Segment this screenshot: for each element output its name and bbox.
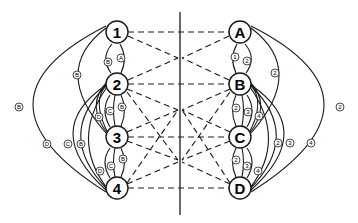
arc-B-C-b	[242, 95, 244, 126]
network-diagram: 1 2 3 4 A B C D	[0, 0, 358, 223]
node-3: 3	[106, 126, 128, 148]
right-arc-label: 3	[244, 108, 252, 116]
svg-text:B: B	[121, 156, 125, 162]
svg-text:D: D	[97, 114, 102, 120]
left-arc-label: B	[118, 103, 126, 111]
svg-text:3: 3	[113, 129, 121, 146]
left-arc-label: C	[107, 162, 115, 170]
svg-text:C: C	[108, 108, 113, 114]
left-arc-label: D	[43, 140, 51, 148]
svg-text:B: B	[17, 104, 21, 110]
node-D: D	[229, 177, 251, 199]
node-2: 2	[106, 73, 128, 95]
right-arc-label: 4	[254, 167, 262, 175]
svg-text:B: B	[75, 72, 79, 78]
node-C: C	[229, 126, 251, 148]
node-A: A	[229, 21, 251, 43]
arc-C-D-b	[242, 148, 244, 177]
svg-text:A: A	[119, 55, 123, 61]
left-arc-label: D	[95, 113, 103, 121]
svg-text:B: B	[106, 59, 110, 65]
arc-3-4-b	[114, 148, 116, 177]
dashed-connections	[127, 32, 230, 188]
node-1: 1	[106, 21, 128, 43]
svg-text:2: 2	[113, 76, 121, 93]
svg-text:B: B	[235, 76, 246, 93]
right-arc-label: 2	[271, 69, 279, 77]
svg-text:C: C	[66, 141, 71, 147]
right-arc-label: 3	[286, 139, 294, 147]
left-arc-label: B	[104, 58, 112, 66]
svg-text:1: 1	[113, 24, 121, 41]
right-arc-label: 2	[243, 57, 251, 65]
svg-text:D: D	[235, 180, 246, 197]
right-arc-label: 2	[232, 156, 240, 164]
svg-text:D: D	[45, 141, 50, 147]
svg-text:A: A	[235, 24, 246, 41]
left-arc-label: B	[119, 155, 127, 163]
node-4: 4	[106, 177, 128, 199]
right-arc-label: 4	[255, 112, 263, 120]
node-B: B	[229, 73, 251, 95]
right-arc-label: 4	[307, 139, 315, 147]
right-arc-label: 2	[232, 104, 240, 112]
right-arc-label: 3	[243, 162, 251, 170]
right-arc-label: 2	[274, 139, 282, 147]
left-arc-label: A	[117, 54, 125, 62]
svg-text:B: B	[79, 141, 83, 147]
right-arc-label: 2	[336, 103, 344, 111]
svg-text:C: C	[109, 163, 114, 169]
left-arc-label: B	[15, 103, 23, 111]
svg-text:B: B	[120, 104, 124, 110]
svg-text:4: 4	[113, 180, 122, 197]
left-arc-label: C	[64, 140, 72, 148]
right-arc-labels: 1222234234234	[231, 53, 344, 175]
svg-text:D: D	[98, 168, 103, 174]
left-arc-label: D	[96, 167, 104, 175]
left-arc-label: C	[106, 107, 114, 115]
left-arc-label: B	[77, 140, 85, 148]
svg-text:C: C	[235, 129, 246, 146]
right-arc-label: 1	[231, 53, 239, 61]
left-arc-label: B	[73, 71, 81, 79]
